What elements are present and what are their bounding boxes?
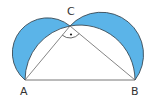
- label-c: C: [67, 6, 75, 17]
- label-a: A: [20, 86, 28, 97]
- right-angle-dot: [70, 33, 72, 35]
- label-b: B: [131, 86, 139, 97]
- right-lune: [70, 12, 144, 80]
- left-lune: [12, 18, 70, 80]
